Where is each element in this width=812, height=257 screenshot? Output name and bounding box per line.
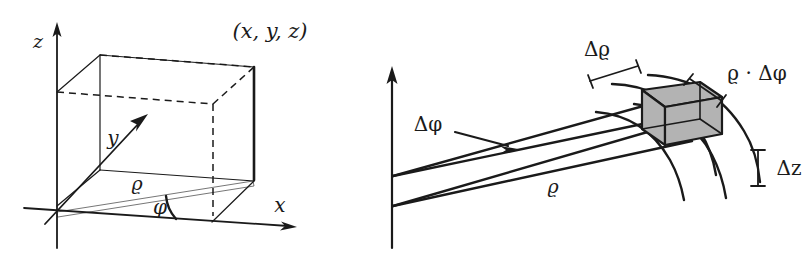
label-point-xyz: (x, y, z) — [232, 19, 307, 43]
label-rho-delta-phi: ϱ · Δφ — [727, 61, 786, 85]
label-delta-phi: Δφ — [414, 112, 442, 136]
box-hidden-edges — [57, 55, 254, 216]
label-axis-y: y — [106, 126, 119, 150]
figure-root: z y x (x, y, z) ϱ φ — [0, 0, 812, 257]
right-panel-group: Δϱ ϱ · Δφ Δφ Δz ϱ — [387, 37, 802, 248]
delta-z-measure-bracket — [751, 150, 765, 186]
label-delta-z: Δz — [777, 156, 802, 180]
label-delta-rho: Δϱ — [584, 37, 610, 61]
label-rho-right: ϱ — [547, 175, 559, 197]
label-rho-left: ϱ — [131, 172, 143, 194]
label-axis-x: x — [274, 193, 285, 217]
y-axis — [45, 114, 148, 224]
cylindrical-coordinates-figure: z y x (x, y, z) ϱ φ — [0, 0, 812, 257]
phi-angle-arc — [166, 196, 176, 219]
right-vertical-axis — [387, 66, 398, 248]
label-axis-z: z — [32, 30, 44, 52]
volume-element-solid — [642, 82, 722, 145]
left-panel-group: z y x (x, y, z) ϱ φ — [24, 19, 308, 248]
label-phi-left: φ — [153, 195, 167, 219]
